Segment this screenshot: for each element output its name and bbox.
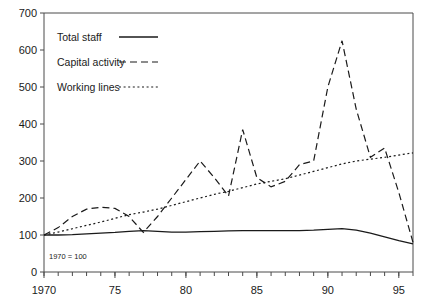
series-line-capital-activity <box>44 41 413 243</box>
chart-container: 0100200300400500600700 19707580859095 To… <box>0 0 431 308</box>
x-axis-tick-labels: 19707580859095 <box>32 284 405 296</box>
y-tick-label: 500 <box>19 81 37 93</box>
y-tick-label: 200 <box>19 192 37 204</box>
x-axis-minor-ticks <box>44 272 413 276</box>
legend-label-total-staff: Total staff <box>57 31 102 43</box>
legend-label-capital-activity: Capital activity <box>57 56 125 68</box>
x-axis-major-ticks <box>44 272 399 278</box>
index-line-chart: 0100200300400500600700 19707580859095 To… <box>0 0 431 308</box>
y-tick-label: 700 <box>19 7 37 19</box>
y-axis-tick-marks <box>40 13 44 272</box>
x-tick-label: 85 <box>251 284 263 296</box>
series-line-total-staff <box>44 229 413 244</box>
x-tick-label: 95 <box>393 284 405 296</box>
y-tick-label: 0 <box>31 266 37 278</box>
data-series-group <box>44 41 413 244</box>
base-year-annotation: 1970 = 100 <box>49 252 87 261</box>
x-tick-label: 90 <box>322 284 334 296</box>
chart-legend: Total staffCapital activityWorking lines <box>57 31 158 93</box>
x-tick-label: 80 <box>180 284 192 296</box>
x-tick-label: 1970 <box>32 284 56 296</box>
y-tick-label: 300 <box>19 155 37 167</box>
y-tick-label: 400 <box>19 118 37 130</box>
legend-label-working-lines: Working lines <box>57 81 120 93</box>
x-tick-label: 75 <box>109 284 121 296</box>
y-axis-tick-labels: 0100200300400500600700 <box>19 7 37 278</box>
y-tick-label: 600 <box>19 44 37 56</box>
y-tick-label: 100 <box>19 229 37 241</box>
